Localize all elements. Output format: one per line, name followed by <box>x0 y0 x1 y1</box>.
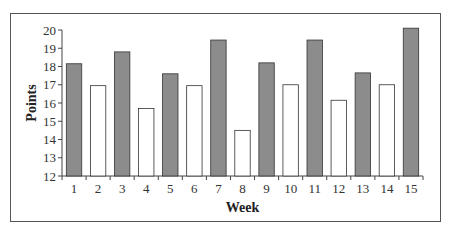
x-tick-label: 2 <box>95 181 102 196</box>
x-tick-label: 4 <box>143 181 150 196</box>
x-tick-label: 13 <box>356 181 369 196</box>
bar-week-14 <box>379 85 394 176</box>
bar-week-11 <box>307 40 322 176</box>
bar-week-9 <box>259 63 274 176</box>
x-tick-label: 15 <box>404 181 417 196</box>
bar-week-1 <box>66 64 81 176</box>
bar-week-10 <box>283 85 298 176</box>
x-tick-label: 14 <box>380 181 394 196</box>
bar-week-8 <box>235 130 250 176</box>
x-tick-label: 3 <box>119 181 126 196</box>
x-tick-label: 10 <box>284 181 297 196</box>
y-tick-label: 18 <box>43 59 56 74</box>
bar-week-7 <box>211 40 226 176</box>
bar-week-4 <box>139 108 154 176</box>
x-tick-label: 1 <box>71 181 78 196</box>
x-axis-title: Week <box>226 200 260 215</box>
x-tick-label: 9 <box>263 181 270 196</box>
x-tick-label: 8 <box>239 181 246 196</box>
y-tick-label: 12 <box>43 169 56 184</box>
y-tick-label: 14 <box>43 132 57 147</box>
y-tick-label: 16 <box>43 96 57 111</box>
y-tick-label: 19 <box>43 41 56 56</box>
y-tick-label: 15 <box>43 114 56 129</box>
y-tick-label: 17 <box>43 77 57 92</box>
x-tick-label: 11 <box>308 181 321 196</box>
bar-week-2 <box>90 86 105 176</box>
bar-week-15 <box>403 28 418 176</box>
y-tick-label: 13 <box>43 150 56 165</box>
bar-chart: 121314151617181920123456789101112131415W… <box>0 0 454 233</box>
x-tick-label: 6 <box>191 181 198 196</box>
y-tick-label: 20 <box>43 23 56 38</box>
bar-week-3 <box>114 52 129 176</box>
x-tick-label: 7 <box>215 181 222 196</box>
bar-week-12 <box>331 100 346 176</box>
bar-week-6 <box>187 86 202 176</box>
bar-week-13 <box>355 73 370 176</box>
x-tick-label: 5 <box>167 181 174 196</box>
y-axis-title: Points <box>24 84 39 122</box>
bar-week-5 <box>163 74 178 176</box>
x-tick-label: 12 <box>332 181 345 196</box>
